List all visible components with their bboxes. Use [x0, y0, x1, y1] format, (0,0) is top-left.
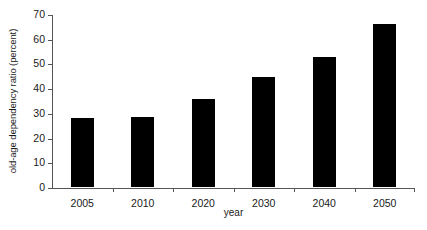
y-tick-label: 10: [33, 156, 45, 169]
plot-area: 010203040506070 200520102020203020402050: [52, 15, 415, 188]
y-tick-label: 30: [33, 107, 45, 120]
x-tick-mark: [113, 188, 114, 192]
y-tick-mark: [48, 163, 52, 164]
y-axis-title: old-age dependency ratio (percent): [4, 6, 22, 196]
y-tick-mark: [48, 188, 52, 189]
x-tick-mark: [294, 188, 295, 192]
y-tick-label: 70: [33, 8, 45, 21]
y-axis-line: [52, 15, 53, 189]
y-tick-mark: [48, 15, 52, 16]
x-tick-mark: [173, 188, 174, 192]
y-tick-mark: [48, 89, 52, 90]
y-tick-mark: [48, 40, 52, 41]
x-tick-mark: [234, 188, 235, 192]
y-tick-label: 60: [33, 33, 45, 46]
y-tick-mark: [48, 114, 52, 115]
y-tick-label: 0: [39, 181, 45, 194]
bar: [252, 77, 275, 187]
y-tick-mark: [48, 64, 52, 65]
y-tick-label: 40: [33, 82, 45, 95]
y-tick-label: 20: [33, 132, 45, 145]
bar: [131, 117, 154, 187]
bar: [313, 57, 336, 187]
bar: [373, 24, 396, 187]
y-tick-label: 50: [33, 57, 45, 70]
bar-chart: old-age dependency ratio (percent) 01020…: [0, 0, 427, 230]
x-tick-mark: [414, 188, 415, 192]
x-tick-mark: [355, 188, 356, 192]
x-axis-title: year: [52, 207, 415, 218]
bar: [192, 99, 215, 187]
bar: [71, 118, 94, 187]
y-tick-mark: [48, 139, 52, 140]
